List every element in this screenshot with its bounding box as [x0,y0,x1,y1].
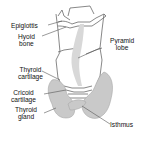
left-cartilage-edge [56,14,62,86]
cricoid-ring [64,86,92,92]
label-thyroid-cartilage: Thyroid cartilage [18,66,43,80]
thyroid-cartilage-shape [68,6,94,16]
trachea-rings [68,94,88,98]
pyramidal-lobe-shape [71,24,84,86]
label-thyroid-gland: Thyroid gland [15,106,37,120]
thyroid-diagram: Epiglottis Hyoid bone Thyroid cartilage … [0,0,148,146]
label-epiglottis: Epiglottis [11,22,38,29]
leader-pyramid [78,48,100,58]
right-lobe [82,72,113,118]
label-cricoid-cartilage: Cricoid cartilage [11,89,36,103]
label-pyramidal-lobe: Pyramid lobe [110,37,134,51]
leader-hyoid [42,27,66,36]
left-lobe [48,80,75,118]
label-isthmus: Isthmus [110,121,133,128]
label-hyoid-bone: Hyoid bone [18,33,35,47]
leader-epiglottis [48,21,62,25]
